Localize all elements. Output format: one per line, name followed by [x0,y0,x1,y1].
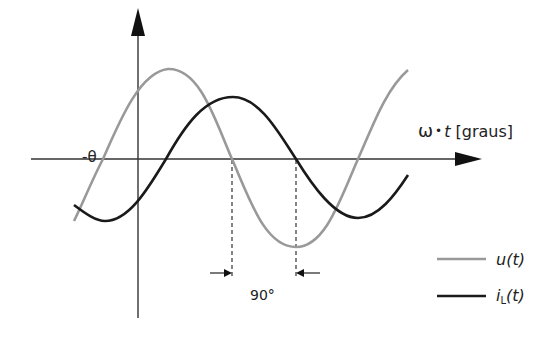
legend-label-iL: iL(t) [496,286,525,306]
y-axis-arrow-icon [131,8,145,36]
theta-label: -θ [82,148,97,166]
multiply-dot: • [435,124,442,138]
x-axis-label: ω•t [graus] [418,120,513,141]
phase-shift-label: 90° [250,287,275,303]
omega-symbol: ω [418,120,433,141]
legend-label-u: u(t) [496,250,525,269]
x-axis-arrow-icon [455,152,482,166]
current-suffix: (t) [506,286,525,305]
arrow-left-icon [296,269,304,277]
voltage-curve-u [74,69,408,247]
phasor-waveform-diagram [0,0,553,338]
unit-label: [graus] [450,122,513,141]
arrow-right-icon [224,269,232,277]
